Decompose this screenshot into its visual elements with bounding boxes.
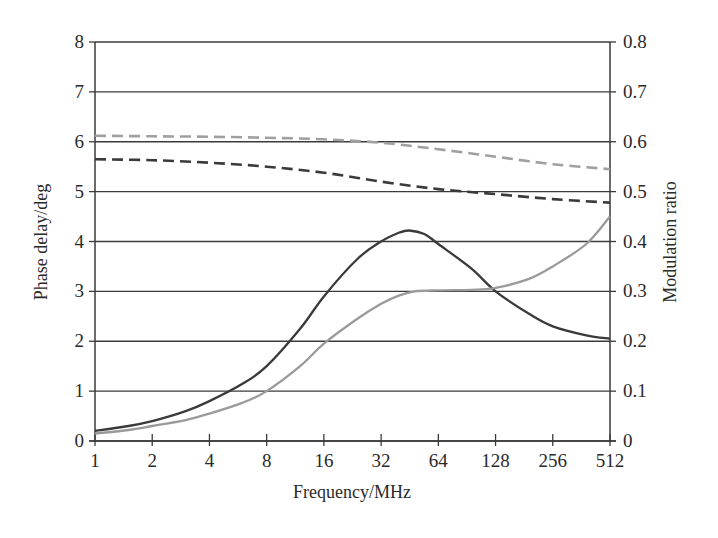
x-tick-label: 16	[314, 450, 333, 471]
data-series	[95, 136, 610, 434]
y-axis-ticks-left: 012345678	[75, 31, 96, 451]
y-tick-label: 8	[75, 31, 85, 52]
y-axis-title-left: Phase delay/deg	[31, 184, 51, 300]
y-tick-label: 6	[75, 131, 85, 152]
x-tick-label: 1	[90, 450, 100, 471]
x-tick-label: 8	[262, 450, 272, 471]
y2-tick-label: 0.4	[623, 231, 647, 252]
y-tick-label: 3	[75, 280, 85, 301]
y-axis-title-right: Modulation ratio	[660, 181, 680, 302]
series-line	[95, 217, 610, 434]
series-line	[95, 230, 610, 431]
x-tick-label: 2	[147, 450, 157, 471]
y2-tick-label: 0.1	[623, 380, 647, 401]
y2-tick-label: 0.7	[623, 81, 647, 102]
series-line	[95, 159, 610, 202]
y2-tick-label: 0.6	[623, 131, 647, 152]
y2-tick-label: 0	[623, 430, 633, 451]
y-axis-ticks-right: 00.10.20.30.40.50.60.70.8	[610, 31, 647, 451]
y2-tick-label: 0.2	[623, 330, 647, 351]
x-tick-label: 64	[429, 450, 449, 471]
y-tick-label: 7	[75, 81, 85, 102]
y-tick-label: 4	[75, 231, 85, 252]
x-tick-label: 32	[372, 450, 391, 471]
grid-lines	[95, 42, 610, 441]
x-axis-ticks: 1248163264128256512	[90, 434, 624, 471]
x-tick-label: 256	[539, 450, 568, 471]
y2-tick-label: 0.5	[623, 181, 647, 202]
series-line	[95, 136, 610, 169]
y2-tick-label: 0.3	[623, 280, 647, 301]
x-axis-title: Frequency/MHz	[293, 482, 411, 502]
x-tick-label: 128	[481, 450, 510, 471]
y-tick-label: 1	[75, 380, 85, 401]
y-tick-label: 0	[75, 430, 85, 451]
x-tick-label: 512	[596, 450, 625, 471]
y-tick-label: 5	[75, 181, 85, 202]
y2-tick-label: 0.8	[623, 31, 647, 52]
y-tick-label: 2	[75, 330, 85, 351]
chart: 012345678 00.10.20.30.40.50.60.70.8 1248…	[0, 0, 718, 538]
x-tick-label: 4	[205, 450, 215, 471]
